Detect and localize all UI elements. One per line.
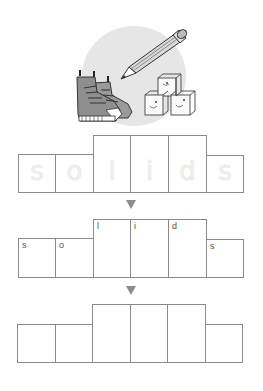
tracing-letter: s <box>207 156 243 186</box>
tracing-letter: d <box>169 156 206 186</box>
tracing-letter: i <box>131 156 168 186</box>
letter-box[interactable]: s <box>206 239 244 278</box>
letter-box[interactable]: d <box>168 219 207 278</box>
box-letter: s <box>210 241 215 251</box>
tracing-letter: o <box>56 156 93 186</box>
empty-letter-box[interactable] <box>205 324 243 363</box>
empty-letter-box[interactable] <box>17 324 56 363</box>
empty-letter-box[interactable] <box>92 304 131 363</box>
letter-box[interactable]: s <box>18 238 56 278</box>
box-letter: l <box>97 221 99 231</box>
box-letter: s <box>22 240 27 250</box>
shoes-pencil-blocks-illustration <box>0 0 263 130</box>
illustration <box>0 0 263 130</box>
empty-letter-box[interactable] <box>55 324 93 363</box>
box-letter: i <box>134 221 136 231</box>
letter-box[interactable]: l <box>93 219 131 278</box>
letter-box[interactable]: i <box>130 219 169 278</box>
letter-box[interactable]: l <box>93 135 131 193</box>
letter-box[interactable]: i <box>130 135 169 193</box>
letter-box[interactable]: o <box>55 238 94 278</box>
tracing-letter: s <box>19 156 55 186</box>
box-letter: o <box>59 240 64 250</box>
box-letter: d <box>172 221 177 231</box>
letter-box[interactable]: d <box>168 135 207 193</box>
letter-box[interactable]: s <box>206 155 244 193</box>
down-arrow-icon <box>126 286 136 295</box>
down-arrow-icon <box>126 200 136 209</box>
letter-box[interactable]: s <box>18 154 56 193</box>
tracing-letter: l <box>94 156 130 186</box>
empty-letter-box[interactable] <box>167 304 206 363</box>
letter-box[interactable]: o <box>55 154 94 193</box>
empty-letter-box[interactable] <box>130 304 168 363</box>
